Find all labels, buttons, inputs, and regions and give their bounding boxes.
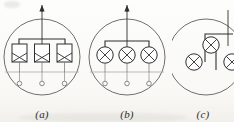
terminal-b-1 bbox=[103, 81, 108, 86]
diagram-panel-c: (c) bbox=[172, 0, 234, 122]
terminal-b-3 bbox=[147, 81, 152, 86]
schematic-a bbox=[0, 0, 84, 104]
lamp-symbol-a-3 bbox=[57, 44, 72, 72]
diagram-panel-a: (a) bbox=[0, 0, 84, 122]
terminal-b-2 bbox=[125, 81, 130, 86]
figure-page: (a) bbox=[0, 0, 234, 122]
caption-c: (c) bbox=[172, 108, 234, 120]
caption-a: (a) bbox=[0, 108, 84, 120]
diagram-panel-b: (b) bbox=[86, 0, 168, 122]
panel-boundary-circle-c bbox=[172, 19, 234, 95]
lamp-symbol-c-2 bbox=[186, 54, 202, 70]
terminals-b bbox=[103, 81, 152, 86]
terminal-a-2 bbox=[40, 81, 45, 86]
lamp-symbol-c-1 bbox=[203, 37, 219, 53]
terminal-a-1 bbox=[17, 81, 22, 86]
lamp-symbol-a-2 bbox=[35, 44, 50, 72]
lamp-symbol-b-1 bbox=[97, 47, 113, 72]
lamp-symbol-a-1 bbox=[12, 44, 27, 72]
lamp-symbol-b-2 bbox=[119, 47, 135, 72]
caption-b: (b) bbox=[86, 108, 168, 120]
schematic-c bbox=[172, 0, 234, 104]
terminal-leads-a bbox=[20, 72, 65, 81]
terminal-a-3 bbox=[62, 81, 67, 86]
schematic-b bbox=[86, 0, 168, 104]
lamp-symbol-c-3 bbox=[224, 54, 234, 70]
lamp-symbol-b-3 bbox=[141, 47, 157, 72]
terminal-leads-b bbox=[105, 72, 149, 81]
terminals-a bbox=[17, 81, 67, 86]
